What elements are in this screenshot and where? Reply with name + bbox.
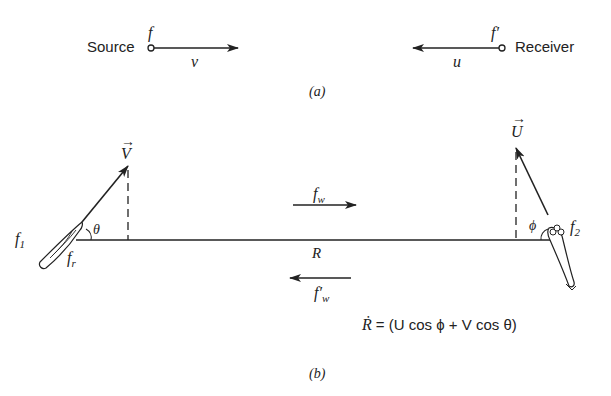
receiver-point-icon (499, 45, 505, 51)
source-point-icon (148, 45, 154, 51)
part-b: R V → θ f1 fr U → ϕ f2 fw (15, 111, 580, 382)
vector-arrow-v-icon: → (121, 134, 135, 149)
vector-arrow-u-icon: → (512, 111, 526, 126)
receiver-frequency: f′ (491, 24, 499, 42)
vessel-1-icon (39, 222, 82, 269)
vessel-2-frequency: f2 (570, 218, 580, 238)
doppler-diagram: Source f v f′ u Receiver (a) R V → θ f1 … (0, 0, 611, 396)
range-rate-equation: Ṙ= (U cos ϕ + V cos θ) (361, 316, 517, 333)
fw-sub: w (317, 193, 325, 205)
angle-theta-arc-icon (86, 229, 91, 240)
return-wave-label: f′w (314, 284, 330, 304)
velocity-u-arrow-icon (516, 148, 548, 215)
angle-theta-label: θ (93, 222, 100, 237)
part-a: Source f v f′ u Receiver (a) (87, 24, 574, 100)
source-label: Source (87, 38, 135, 55)
vessel-1-reflected-frequency: fr (67, 249, 76, 269)
source-velocity-label: v (191, 53, 199, 70)
angle-phi-arc-icon (541, 229, 548, 240)
source-frequency: f (148, 24, 155, 42)
angle-phi-label: ϕ (529, 218, 536, 233)
equation-lhs: Ṙ (361, 316, 372, 333)
equation-rhs: = (U cos ϕ + V cos θ) (376, 316, 517, 333)
vessel-1-frequency: f1 (15, 230, 25, 250)
range-label: R (311, 245, 321, 261)
f2-sub: 2 (574, 226, 580, 238)
fpw-sub: w (322, 292, 330, 304)
forward-wave-label: fw (313, 185, 325, 205)
caption-b: (b) (309, 366, 326, 382)
receiver-velocity-label: u (453, 53, 461, 70)
caption-a: (a) (309, 84, 326, 100)
velocity-v-arrow-icon (82, 166, 128, 222)
fr-sub: r (71, 257, 76, 269)
receiver-label: Receiver (515, 38, 574, 55)
f1-sub: 1 (19, 238, 25, 250)
